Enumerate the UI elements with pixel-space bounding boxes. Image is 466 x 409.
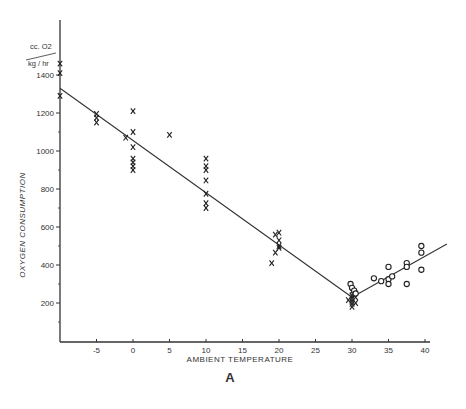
circle-marker [379, 279, 384, 284]
circle-marker [404, 281, 409, 286]
x-marker [94, 120, 98, 126]
x-marker [131, 167, 135, 173]
x-axis-title: AMBIENT TEMPERATURE [187, 355, 294, 364]
axes [60, 20, 430, 342]
circle-marker [404, 264, 409, 269]
x-tick-label: 10 [202, 346, 211, 355]
y-tick-label: 600 [41, 223, 55, 232]
x-marker [204, 156, 208, 162]
circle-marker [419, 250, 424, 255]
x-marker [270, 260, 274, 266]
y-tick-label: 1000 [36, 147, 54, 156]
x-tick-label: 5 [167, 346, 172, 355]
circle-marker [386, 281, 391, 286]
oxygen-consumption-chart: 200400600800100012001400 -50510152025303… [0, 0, 466, 409]
circle-marker [371, 276, 376, 281]
y-tick-label: 800 [41, 185, 55, 194]
regression-line [60, 88, 352, 297]
x-marker [131, 129, 135, 135]
x-marker [131, 108, 135, 114]
x-tick-label: 25 [311, 346, 320, 355]
y-tick-label: 1200 [36, 109, 54, 118]
circle-marker [386, 264, 391, 269]
figure-label: A [225, 370, 235, 385]
y-tick-label: 200 [41, 299, 55, 308]
x-marker [131, 144, 135, 150]
circle-marker [390, 274, 395, 279]
x-marker [204, 167, 208, 173]
x-tick-label: 15 [238, 346, 247, 355]
regression-line [352, 244, 447, 297]
data-points [58, 61, 424, 310]
x-marker [273, 250, 277, 256]
x-tick-label: 30 [348, 346, 357, 355]
x-marker [167, 132, 171, 138]
circle-marker [353, 291, 358, 296]
y-tick-label: 1400 [36, 71, 54, 80]
circle-marker [419, 267, 424, 272]
x-marker [204, 205, 208, 211]
x-marker [277, 238, 281, 244]
y-unit-label: cc. O2 kg / hr [26, 42, 56, 68]
y-ticks: 200400600800100012001400 [36, 71, 60, 322]
x-tick-label: 20 [275, 346, 284, 355]
y-unit-bottom: kg / hr [28, 59, 49, 68]
x-tick-label: 35 [384, 346, 393, 355]
x-tick-label: -5 [93, 346, 101, 355]
circle-marker [419, 243, 424, 248]
y-axis-title: OXYGEN CONSUMPTION [18, 172, 27, 277]
y-unit-top: cc. O2 [30, 42, 52, 51]
x-tick-label: 0 [131, 346, 136, 355]
x-tick-label: 40 [421, 346, 430, 355]
y-tick-label: 400 [41, 261, 55, 270]
x-marker [204, 178, 208, 184]
